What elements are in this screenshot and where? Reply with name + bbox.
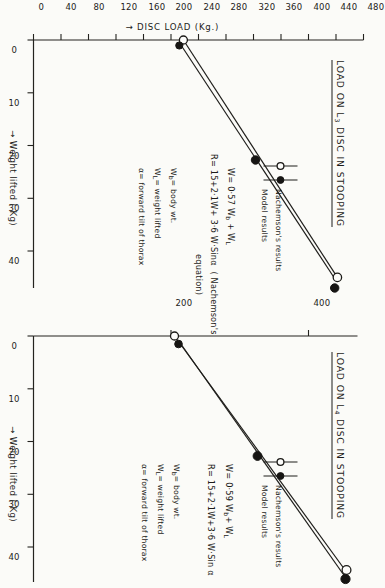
- l4-title-rest: DISC IN STOOPING: [334, 415, 345, 519]
- l3-ytick-0: 0: [38, 2, 44, 12]
- l4-note2-text: = forward tilt of thorax: [139, 469, 148, 561]
- l3-ytick-280: 280: [230, 2, 247, 12]
- l4-x-ticks: [27, 336, 33, 547]
- l3-title-main: LOAD ON L: [334, 60, 345, 118]
- chart-panel-l4: 200 400 0 10 20 30 40 → Weight lifted ( …: [0, 296, 385, 588]
- l3-xtick-10: 10: [8, 98, 19, 108]
- l3-model-point-0: [175, 42, 182, 49]
- l3-legend-markers: [263, 163, 297, 184]
- l3-ytick-480: 480: [367, 2, 384, 12]
- l3-note2-text: = forward tilt of thorax: [136, 173, 145, 265]
- l3-model-point-22: [251, 156, 259, 164]
- l3-model-point-45: [330, 284, 338, 292]
- l4-note1-text: = weight lifted: [155, 475, 164, 534]
- l3-x-axis-title: → Weight lifted ( Kg): [7, 130, 17, 226]
- l4-eq1-lead: W= 0·59 W: [223, 464, 233, 512]
- l3-chart-title: LOAD ON L3 DISC IN STOOPING: [331, 60, 345, 227]
- l4-equation-2: R= 15+2·1W+3·6 W·Sin α: [205, 464, 215, 576]
- l3-xtick-0: 0: [11, 45, 17, 55]
- l4-x-axis-label: Weight lifted ( Kg): [7, 437, 17, 522]
- l4-legend-label-nachemson: Nachemson's results: [273, 485, 282, 568]
- l4-note-tilt: α= forward tilt of thorax: [139, 464, 148, 561]
- l3-title-rest: DISC IN STOOPING: [334, 123, 345, 227]
- l3-ytick-400: 400: [313, 2, 330, 12]
- l3-ytick-40: 40: [65, 2, 76, 12]
- l3-ytick-80: 80: [93, 2, 104, 12]
- l4-chart-title: LOAD ON L4 DISC IN STOOPING: [331, 352, 345, 519]
- figure-canvas: 0 40 80 120 160 200 240 280 320 360 400 …: [0, 0, 385, 588]
- l3-eq1-mid: + W: [225, 220, 235, 241]
- l3-note1-sym: W: [152, 168, 161, 176]
- l4-legend-markers: [263, 459, 297, 480]
- l3-y-axis-arrow: →: [125, 22, 133, 32]
- l3-ytick-200: 200: [175, 2, 192, 12]
- l3-eq2-text: R= 15+2·1W+ 3·6 W·Sinα: [208, 154, 218, 266]
- l3-x-axis-arrow: →: [7, 130, 17, 138]
- l4-x-axis-title: → Weight lifted ( Kg): [7, 426, 17, 522]
- l4-model-line: [179, 342, 344, 576]
- l4-equation-1: W= 0·59 Wb+ WL: [222, 464, 233, 538]
- l3-y-ticks: [33, 34, 363, 40]
- l4-model-point-22: [253, 452, 262, 461]
- l3-x-axis-label: Weight lifted ( Kg): [7, 141, 17, 226]
- l4-x-axis-arrow: →: [7, 426, 17, 434]
- l3-equation-1: W= 0·57 Wb + WL: [224, 168, 235, 245]
- l4-nachemson-point-45: [342, 566, 351, 575]
- l3-ytick-120: 120: [120, 2, 137, 12]
- l3-legend-label-model: Model results: [259, 189, 268, 242]
- chart-panel-l3: 0 40 80 120 160 200 240 280 320 360 400 …: [0, 0, 385, 296]
- l3-note-body-wt: Wb= body wt.: [167, 168, 177, 223]
- l4-note1-sym: W: [155, 464, 164, 472]
- l3-legend-label-nachemson: Nachemson's results: [273, 189, 282, 272]
- l4-nachemson-point-0: [170, 332, 178, 340]
- l3-note-weight-lifted: WL= weight lifted: [151, 168, 161, 238]
- l3-ytick-440: 440: [340, 2, 357, 12]
- l3-ytick-360: 360: [285, 2, 302, 12]
- l3-y-axis-label: DISC LOAD (Kg.): [137, 22, 219, 32]
- figure-page: 0 40 80 120 160 200 240 280 320 360 400 …: [0, 0, 385, 588]
- l3-x-ticks: [27, 40, 33, 251]
- chart-l3-svg: [0, 0, 385, 296]
- l4-xtick-40: 40: [8, 552, 19, 562]
- l4-ytick-200: 200: [175, 298, 192, 308]
- l3-ytick-320: 320: [258, 2, 275, 12]
- l3-xtick-40: 40: [8, 256, 19, 266]
- l4-model-point-0: [174, 340, 182, 348]
- l4-note-body-wt: Wb= body wt.: [170, 464, 180, 519]
- l4-note0-sym: W: [171, 464, 180, 472]
- l4-eq1-sub2: L: [222, 535, 229, 539]
- l3-nachemson-point-45: [333, 273, 341, 281]
- l3-note0-sym: W: [168, 168, 177, 176]
- l4-title-main: LOAD ON L: [334, 352, 345, 410]
- l4-y-ticks: [171, 330, 309, 336]
- chart-l4-svg: [0, 296, 385, 588]
- l3-eq1-lead: W= 0·57 W: [225, 168, 235, 216]
- l3-note-tilt: α= forward tilt of thorax: [136, 168, 145, 265]
- l4-note0-text: = body wt.: [171, 476, 180, 520]
- l4-note-weight-lifted: WL= weight lifted: [154, 464, 164, 534]
- l4-ytick-400: 400: [313, 298, 330, 308]
- l3-equation-2-cont: equation): [193, 254, 203, 295]
- l3-eq1-sub2: L: [224, 241, 231, 245]
- l3-y-axis-title: → DISC LOAD (Kg.): [125, 22, 219, 32]
- l4-eq1-mid: + W: [223, 516, 233, 534]
- l4-model-point-45: [340, 574, 349, 583]
- l4-xtick-0: 0: [11, 341, 17, 351]
- l3-ytick-160: 160: [148, 2, 165, 12]
- l3-note0-text: = body wt.: [168, 180, 177, 224]
- l3-note1-text: = weight lifted: [152, 179, 161, 238]
- l4-legend-label-model: Model results: [259, 485, 268, 538]
- l3-ytick-240: 240: [203, 2, 220, 12]
- l4-xtick-10: 10: [8, 394, 19, 404]
